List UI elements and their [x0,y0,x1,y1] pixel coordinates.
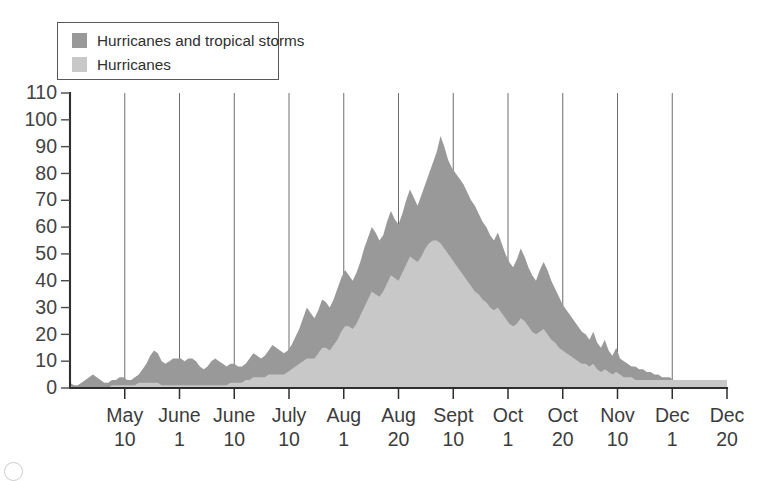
x-tick-day: 1 [338,428,349,450]
x-tick-day: 10 [442,428,464,450]
x-axis-labels: May10June1June10July10Aug1Aug20Sept10Oct… [106,404,744,450]
x-tick-month: Aug [326,404,361,426]
y-tick-label: 40 [35,269,57,291]
x-tick-month: June [158,404,200,426]
x-tick-day: 10 [607,428,629,450]
legend-item-hurricanes: Hurricanes [72,54,278,75]
x-tick-day: 10 [278,428,300,450]
y-tick-label: 70 [35,188,57,210]
x-tick-month: Dec [710,404,745,426]
legend-item-storms: Hurricanes and tropical storms [72,30,278,51]
y-tick-label: 90 [35,135,57,157]
scan-artifact-mark [4,462,23,481]
x-tick-month: May [106,404,143,426]
x-tick-month: Oct [548,404,579,426]
x-tick-month: Nov [600,404,635,426]
y-axis-labels: 0102030405060708090100110 [24,81,57,398]
y-tick-label: 10 [35,349,57,371]
legend-swatch-hurricanes [72,57,87,72]
x-tick-month: Oct [493,404,524,426]
x-tick-day: 1 [667,428,678,450]
x-tick-day: 20 [552,428,574,450]
x-tick-month: Dec [655,404,690,426]
x-tick-day: 1 [503,428,514,450]
x-axis-ticks [125,388,727,399]
x-tick-month: July [272,404,307,426]
y-tick-label: 0 [46,376,57,398]
legend-label-storms: Hurricanes and tropical storms [97,33,304,48]
chart-legend: Hurricanes and tropical storms Hurricane… [57,22,279,80]
y-tick-label: 50 [35,242,57,264]
x-tick-month: Sept [433,404,474,426]
x-tick-day: 10 [114,428,136,450]
x-tick-day: 20 [388,428,410,450]
legend-label-hurricanes: Hurricanes [97,57,171,72]
y-tick-label: 110 [26,81,57,103]
x-tick-day: 20 [716,428,738,450]
y-tick-label: 30 [35,296,57,318]
y-tick-label: 20 [35,323,57,345]
legend-swatch-storms [72,33,87,48]
y-tick-label: 60 [35,215,57,237]
y-tick-label: 80 [35,162,57,184]
x-tick-day: 1 [174,428,185,450]
x-tick-day: 10 [223,428,245,450]
x-tick-month: June [213,404,255,426]
y-tick-label: 100 [24,108,57,130]
y-axis-ticks [61,93,70,388]
x-tick-month: Aug [381,404,416,426]
